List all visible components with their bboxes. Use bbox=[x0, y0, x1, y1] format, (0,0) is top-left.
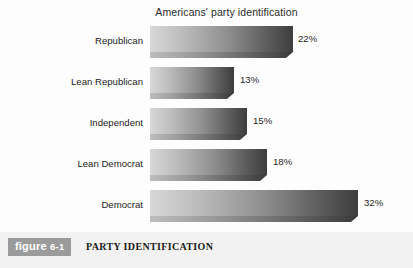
bar-3d-shadow bbox=[150, 93, 234, 99]
chart-row: Independent 15% bbox=[0, 108, 413, 149]
bar-lean-republican bbox=[150, 67, 234, 101]
figure-number-tag: figure 6-1 bbox=[8, 238, 71, 256]
category-label-independent: Independent bbox=[0, 117, 143, 128]
bar-republican bbox=[150, 26, 293, 60]
bar-democrat bbox=[150, 190, 358, 224]
chart-row: Republican 22% bbox=[0, 26, 413, 67]
category-label-democrat: Democrat bbox=[0, 199, 143, 210]
figure-caption: figure 6-1 PARTY IDENTIFICATION bbox=[0, 238, 413, 258]
chart-row: Lean Republican 13% bbox=[0, 67, 413, 108]
bar-3d-shadow bbox=[150, 134, 247, 140]
value-label-lean-republican: 13% bbox=[240, 74, 259, 85]
bar-3d-shadow bbox=[150, 175, 267, 181]
chart-row: Democrat 32% bbox=[0, 190, 413, 231]
category-label-lean-democrat: Lean Democrat bbox=[0, 158, 143, 169]
bar-lean-democrat bbox=[150, 149, 267, 183]
value-label-democrat: 32% bbox=[364, 197, 383, 208]
figure-caption-title: PARTY IDENTIFICATION bbox=[86, 241, 213, 252]
bar-3d-shadow bbox=[150, 216, 358, 222]
bar-3d-shadow bbox=[150, 52, 293, 58]
bar-independent bbox=[150, 108, 247, 142]
category-label-lean-republican: Lean Republican bbox=[0, 76, 143, 87]
category-label-republican: Republican bbox=[0, 35, 143, 46]
bar-face bbox=[150, 149, 267, 175]
bar-face bbox=[150, 67, 234, 93]
bar-chart-plot-area: Republican 22% Lean Republican 13% Indep… bbox=[0, 26, 413, 232]
figure-number: 6-1 bbox=[50, 241, 64, 252]
bar-face bbox=[150, 26, 293, 52]
figure-container: Americans' party identification Republic… bbox=[0, 0, 413, 268]
bar-face bbox=[150, 108, 247, 134]
chart-title: Americans' party identification bbox=[0, 6, 413, 18]
chart-row: Lean Democrat 18% bbox=[0, 149, 413, 190]
value-label-republican: 22% bbox=[298, 33, 317, 44]
value-label-independent: 15% bbox=[253, 115, 272, 126]
bar-face bbox=[150, 190, 358, 216]
figure-word: figure bbox=[15, 240, 47, 252]
value-label-lean-democrat: 18% bbox=[273, 156, 292, 167]
